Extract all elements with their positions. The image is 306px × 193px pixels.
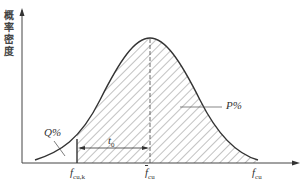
- q-leader: [54, 141, 65, 156]
- probability-area-p: [35, 38, 258, 163]
- distribution-diagram: [0, 0, 306, 193]
- fcuk-label: fcu,k: [70, 166, 85, 181]
- fcu-mean-label: fcu: [145, 166, 155, 181]
- y-axis-label: 概率密度: [4, 10, 16, 58]
- t0-label: t0: [108, 134, 115, 149]
- q-percent-label: Q%: [44, 126, 61, 138]
- fcu-label: fcu: [252, 166, 262, 181]
- p-percent-label: P%: [226, 99, 242, 111]
- x-axis-arrow-icon: [292, 161, 300, 166]
- y-axis-arrow-icon: [20, 8, 25, 16]
